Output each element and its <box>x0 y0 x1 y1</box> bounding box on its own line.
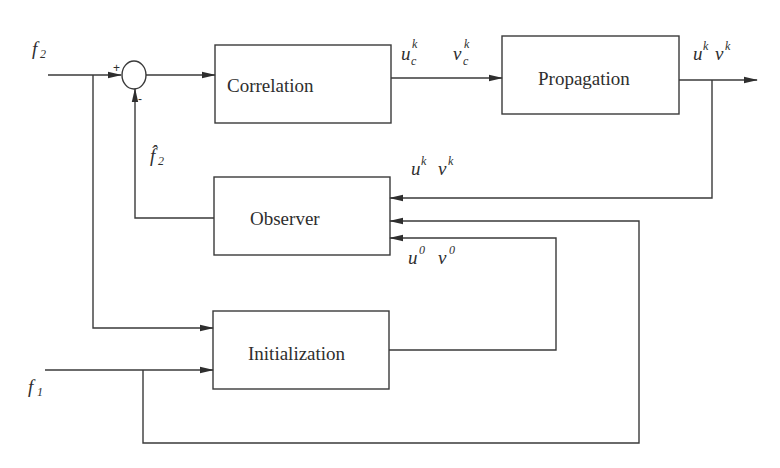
observer-estimate-line <box>135 89 214 218</box>
svg-text:k: k <box>412 37 418 51</box>
svg-text:v: v <box>438 247 447 268</box>
vc-k-symbol: v k c <box>453 37 470 68</box>
f2-hat-symbol: f̂ 2 <box>150 145 164 168</box>
svg-text:k: k <box>725 39 731 53</box>
uk-vk-output-symbol: u k v k <box>693 39 731 64</box>
svg-text:v: v <box>438 158 447 179</box>
f2-symbol: f 2 <box>32 38 46 61</box>
output-feedback-line <box>390 80 712 198</box>
correlation-label: Correlation <box>227 75 314 96</box>
f1-symbol: f 1 <box>28 376 43 399</box>
uc-k-symbol: u k c <box>401 37 418 68</box>
svg-text:u: u <box>693 43 703 64</box>
svg-text:0: 0 <box>419 243 425 257</box>
u0-v0-symbol: u 0 v 0 <box>408 243 455 268</box>
svg-text:u: u <box>401 43 411 64</box>
svg-text:f: f <box>28 376 36 397</box>
plus-sign: + <box>113 61 120 75</box>
svg-text:u: u <box>408 247 418 268</box>
svg-text:c: c <box>463 54 469 68</box>
svg-text:k: k <box>421 154 427 168</box>
svg-text:0: 0 <box>449 243 455 257</box>
block-diagram: Correlation Propagation Observer Initial… <box>0 0 780 468</box>
initialization-label: Initialization <box>248 343 346 364</box>
minus-sign: - <box>138 92 142 106</box>
svg-text:1: 1 <box>37 385 43 399</box>
svg-text:v: v <box>453 43 462 64</box>
svg-text:2: 2 <box>158 154 164 168</box>
f2-to-initialization-line <box>93 75 213 328</box>
propagation-label: Propagation <box>538 68 630 89</box>
svg-text:u: u <box>411 158 421 179</box>
svg-text:k: k <box>703 39 709 53</box>
svg-text:v: v <box>715 43 724 64</box>
svg-text:k: k <box>464 37 470 51</box>
observer-label: Observer <box>250 208 320 229</box>
svg-text:2: 2 <box>40 47 46 61</box>
svg-text:c: c <box>411 54 417 68</box>
summing-junction <box>122 61 146 89</box>
uk-vk-feedback-symbol: u k v k <box>411 154 454 179</box>
svg-text:f: f <box>32 38 40 59</box>
svg-text:k: k <box>448 154 454 168</box>
